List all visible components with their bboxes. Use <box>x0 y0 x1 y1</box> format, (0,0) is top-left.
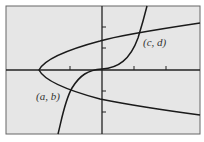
graph: (a, b) (c, d) <box>0 0 204 142</box>
label-point-cd: (c, d) <box>143 36 167 49</box>
label-point-ab: (a, b) <box>36 90 60 103</box>
